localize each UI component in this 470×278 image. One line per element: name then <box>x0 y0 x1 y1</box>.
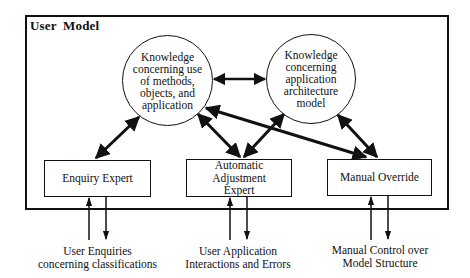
node-text-line: objects, and <box>133 87 202 99</box>
node-text-line: of methods, <box>133 75 202 87</box>
node-text-line: application <box>133 99 202 111</box>
node-text-line: concerning <box>284 61 338 73</box>
caption-line: concerning classifications <box>35 258 160 271</box>
user-model-diagram: User Model <box>0 0 470 278</box>
node-knowledge-use: Knowledge concerning use of methods, obj… <box>122 35 213 126</box>
node-text-line: Expert <box>187 184 291 197</box>
node-text-line: architecture <box>284 85 338 97</box>
caption-line: User Application <box>178 245 298 258</box>
node-text-line: application <box>284 73 338 85</box>
node-manual-override: Manual Override <box>327 159 432 196</box>
node-label: Enquiry Expert <box>62 172 133 185</box>
node-text-line: concerning use <box>133 63 202 75</box>
caption-line: Model Structure <box>325 257 435 270</box>
node-text-line: Knowledge <box>284 49 338 61</box>
caption-line: Interactions and Errors <box>178 258 298 271</box>
node-text-line: Knowledge <box>133 51 202 63</box>
node-enquiry-expert: Enquiry Expert <box>44 160 151 197</box>
caption-manual-control: Manual Control over Model Structure <box>325 244 435 269</box>
caption-line: Manual Control over <box>325 244 435 257</box>
connectors-layer <box>0 0 470 278</box>
caption-user-application: User Application Interactions and Errors <box>178 245 298 270</box>
node-knowledge-architecture: Knowledge concerning application archite… <box>266 34 356 124</box>
caption-line: User Enquiries <box>35 245 160 258</box>
edge-use-enquiry <box>96 117 139 158</box>
caption-user-enquiries: User Enquiries concerning classification… <box>35 245 160 270</box>
node-text-line: model <box>284 97 338 109</box>
edge-use-auto <box>198 114 240 157</box>
node-text-line: Automatic Adjustment <box>187 159 291 184</box>
node-label: Manual Override <box>340 171 419 184</box>
node-automatic-adjustment-expert: Automatic Adjustment Expert <box>186 159 292 197</box>
